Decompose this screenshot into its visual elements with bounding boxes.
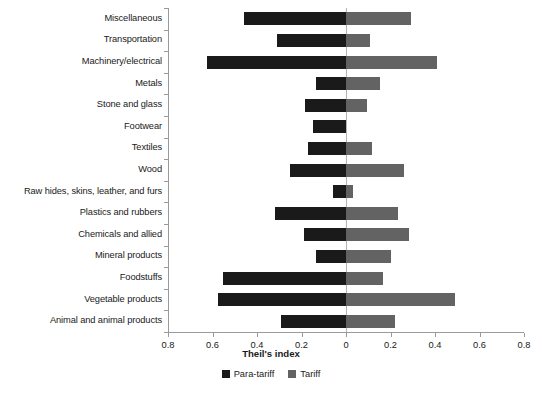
y-axis-tick — [164, 116, 168, 117]
bar-para-tariff — [290, 164, 346, 177]
category-label: Foodstuffs — [120, 272, 162, 283]
x-axis-tick — [257, 333, 258, 337]
y-axis-tick — [164, 51, 168, 52]
category-label: Chemicals and allied — [78, 229, 162, 240]
y-axis-tick — [164, 310, 168, 311]
bar-para-tariff — [223, 272, 346, 285]
bar-para-tariff — [308, 142, 346, 155]
legend-label: Tariff — [300, 369, 320, 379]
legend-label: Para-tariff — [234, 369, 275, 379]
category-label: Footwear — [124, 121, 162, 132]
bar-para-tariff — [281, 315, 346, 328]
y-axis-tick — [164, 289, 168, 290]
legend-swatch-icon — [288, 370, 296, 378]
bar-para-tariff — [313, 120, 346, 133]
category-label: Animal and animal products — [50, 315, 162, 326]
y-axis-tick — [164, 267, 168, 268]
bar-tariff — [346, 207, 398, 220]
bar-tariff — [346, 228, 409, 241]
category-label: Metals — [135, 78, 162, 89]
bar-para-tariff — [316, 250, 346, 263]
bar-para-tariff — [305, 99, 346, 112]
bar-tariff — [346, 12, 411, 25]
x-axis-tick — [524, 333, 525, 337]
category-label: Raw hides, skins, leather, and furs — [24, 186, 162, 197]
y-axis-tick — [164, 202, 168, 203]
category-label: Mineral products — [95, 250, 162, 261]
thiels-index-diverging-bar-chart: MiscellaneousTransportationMachinery/ele… — [0, 0, 542, 396]
chart-legend: Para-tariffTariff — [0, 369, 542, 379]
x-axis-tick — [391, 333, 392, 337]
bar-tariff — [346, 293, 455, 306]
y-axis-line — [168, 8, 169, 332]
category-label: Transportation — [104, 34, 162, 45]
y-axis-tick — [164, 159, 168, 160]
bar-tariff — [346, 34, 370, 47]
bar-para-tariff — [316, 77, 346, 90]
bar-tariff — [346, 250, 391, 263]
bar-para-tariff — [207, 56, 346, 69]
bar-tariff — [346, 272, 383, 285]
x-axis-title: Theil's index — [0, 348, 542, 359]
y-axis-tick — [164, 94, 168, 95]
bar-para-tariff — [277, 34, 346, 47]
category-label: Wood — [138, 164, 162, 175]
x-axis-tick — [168, 333, 169, 337]
x-axis-tick — [302, 333, 303, 337]
category-label: Miscellaneous — [104, 13, 162, 24]
legend-item: Para-tariff — [222, 369, 275, 379]
category-label: Machinery/electrical — [82, 56, 162, 67]
category-label: Vegetable products — [84, 294, 162, 305]
y-axis-tick — [164, 138, 168, 139]
x-axis-tick — [213, 333, 214, 337]
category-label: Plastics and rubbers — [80, 207, 162, 218]
x-axis-tick — [435, 333, 436, 337]
bar-para-tariff — [333, 185, 346, 198]
legend-item: Tariff — [288, 369, 320, 379]
y-axis-tick — [164, 8, 168, 9]
bar-para-tariff — [218, 293, 346, 306]
y-axis-tick — [164, 224, 168, 225]
y-axis-tick — [164, 30, 168, 31]
y-axis-tick — [164, 246, 168, 247]
category-label: Stone and glass — [97, 99, 162, 110]
bar-tariff — [346, 142, 372, 155]
bar-para-tariff — [304, 228, 346, 241]
x-axis-tick — [480, 333, 481, 337]
y-axis-tick — [164, 181, 168, 182]
bar-para-tariff — [275, 207, 346, 220]
y-axis-tick — [164, 73, 168, 74]
category-axis-labels: MiscellaneousTransportationMachinery/ele… — [0, 0, 168, 332]
bar-tariff — [346, 185, 353, 198]
category-label: Textiles — [132, 142, 162, 153]
bar-tariff — [346, 99, 367, 112]
y-axis-tick — [164, 332, 168, 333]
plot-area: 0.80.60.40.200.20.40.60.8 — [168, 8, 524, 332]
legend-swatch-icon — [222, 370, 230, 378]
bar-para-tariff — [244, 12, 346, 25]
x-axis-tick — [346, 333, 347, 337]
bar-tariff — [346, 77, 380, 90]
bar-tariff — [346, 56, 437, 69]
bar-tariff — [346, 315, 395, 328]
bar-tariff — [346, 164, 404, 177]
